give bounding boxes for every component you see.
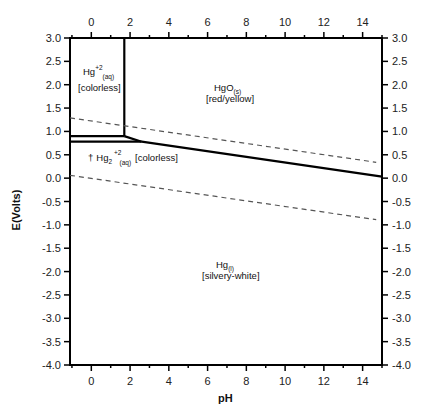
axis-tick-labels: 00224466881010121214143.03.02.52.52.02.0… — [42, 16, 411, 387]
x-tick-label-top: 10 — [279, 16, 291, 28]
x-tick-label-top: 12 — [318, 16, 330, 28]
y-tick-label-left: -2.0 — [42, 266, 61, 278]
y-tick-label-right: -3.5 — [392, 336, 411, 348]
y-tick-label-left: 0.5 — [46, 149, 61, 161]
y-tick-label-left: 3.0 — [46, 32, 61, 44]
x-tick-label-bottom: 12 — [318, 375, 330, 387]
y-tick-label-right: -2.5 — [392, 289, 411, 301]
y-tick-label-right: 0.0 — [392, 172, 407, 184]
y-tick-label-left: 1.0 — [46, 125, 61, 137]
y-tick-label-right: 2.5 — [392, 55, 407, 67]
x-tick-label-top: 6 — [205, 16, 211, 28]
pourbaix-diagram: 00224466881010121214143.03.02.52.52.02.0… — [0, 0, 427, 416]
x-tick-label-top: 8 — [243, 16, 249, 28]
label-hgo-color: [red/yellow] — [206, 93, 254, 104]
y-tick-label-right: -0.5 — [392, 196, 411, 208]
y-tick-label-left: 1.5 — [46, 102, 61, 114]
y-tick-label-right: -3.0 — [392, 312, 411, 324]
y-axis-title: E(Volts) — [10, 189, 22, 230]
label-hg2-color: [colorless] — [78, 82, 121, 93]
label-hg-color: [silvery-white] — [202, 270, 260, 281]
y-tick-label-left: 2.5 — [46, 55, 61, 67]
water-stability-line — [70, 175, 376, 219]
x-tick-label-top: 4 — [166, 16, 172, 28]
y-tick-label-left: -3.0 — [42, 312, 61, 324]
x-tick-label-bottom: 14 — [356, 375, 368, 387]
phase-boundaries — [70, 38, 382, 220]
y-tick-label-right: -1.0 — [392, 219, 411, 231]
y-tick-label-left: -1.5 — [42, 242, 61, 254]
x-tick-label-bottom: 2 — [127, 375, 133, 387]
x-tick-label-bottom: 4 — [166, 375, 172, 387]
y-tick-label-right: 0.5 — [392, 149, 407, 161]
x-tick-label-top: 14 — [356, 16, 368, 28]
label-hg22-aq: †Hg2+2(aq)[colorless] — [88, 149, 178, 167]
y-tick-label-left: -0.5 — [42, 196, 61, 208]
y-tick-label-right: 1.0 — [392, 125, 407, 137]
y-tick-label-right: -4.0 — [392, 359, 411, 371]
y-tick-label-left: -2.5 — [42, 289, 61, 301]
x-tick-label-top: 0 — [88, 16, 94, 28]
y-tick-label-right: -1.5 — [392, 242, 411, 254]
y-tick-label-left: 0.0 — [46, 172, 61, 184]
y-tick-label-right: -2.0 — [392, 266, 411, 278]
y-tick-label-left: 2.0 — [46, 79, 61, 91]
x-tick-label-top: 2 — [127, 16, 133, 28]
label-hg2-aq: Hg+2(aq) — [83, 64, 114, 81]
y-tick-label-right: 3.0 — [392, 32, 407, 44]
y-tick-label-left: -1.0 — [42, 219, 61, 231]
x-axis-title: pH — [218, 392, 233, 404]
x-tick-label-bottom: 8 — [243, 375, 249, 387]
y-tick-label-right: 2.0 — [392, 79, 407, 91]
y-tick-label-left: -3.5 — [42, 336, 61, 348]
x-tick-label-bottom: 10 — [279, 375, 291, 387]
x-tick-label-bottom: 6 — [205, 375, 211, 387]
y-tick-label-right: 1.5 — [392, 102, 407, 114]
x-tick-label-bottom: 0 — [88, 375, 94, 387]
y-tick-label-left: -4.0 — [42, 359, 61, 371]
